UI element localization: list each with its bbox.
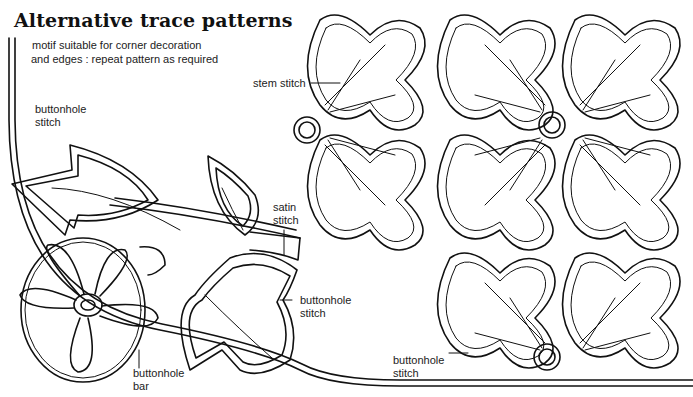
label-satin-stitch: satin stitch <box>273 201 299 227</box>
leader-lines <box>139 83 468 368</box>
label-buttonhole-stitch-leaf: buttonhole stitch <box>300 294 351 320</box>
label-buttonhole-stitch-bottom: buttonhole stitch <box>393 354 444 380</box>
embroidery-pattern-illustration <box>0 0 693 397</box>
clover-grid <box>308 15 681 368</box>
ivy-leaf <box>181 254 297 374</box>
border-lines <box>9 38 693 386</box>
arrow-leaf <box>12 145 180 235</box>
label-stem-stitch: stem stitch <box>253 77 306 90</box>
flower-motif <box>20 238 165 382</box>
label-buttonhole-stitch-top: buttonhole stitch <box>35 103 86 129</box>
label-buttonhole-bar: buttonhole bar <box>133 367 184 393</box>
